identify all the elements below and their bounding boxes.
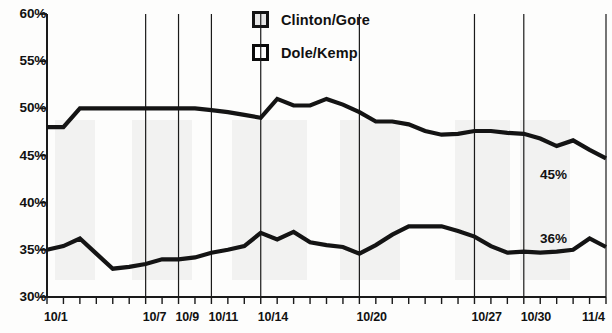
y-tick-label: 45% xyxy=(0,148,46,163)
x-tick-label: 10/20 xyxy=(356,310,386,324)
end-label-clinton-gore: 45% xyxy=(540,167,567,182)
y-tick-label: 35% xyxy=(0,242,46,257)
background-bands xyxy=(55,120,570,280)
chart-plot-area xyxy=(0,0,612,333)
x-tick-label: 11/4 xyxy=(582,310,605,324)
x-tick-label: 10/27 xyxy=(471,310,501,324)
x-tick-label: 10/9 xyxy=(176,310,200,324)
y-tick-label: 55% xyxy=(0,53,46,68)
x-tick-label: 10/1 xyxy=(44,310,68,324)
x-tick-label: 10/30 xyxy=(521,310,551,324)
y-tick-label: 40% xyxy=(0,195,46,210)
end-label-dole-kemp: 36% xyxy=(540,231,567,246)
poll-tracking-chart: Clinton/Gore Dole/Kemp 30%35%40%45%50%55… xyxy=(0,0,612,333)
x-tick-label: 10/11 xyxy=(208,310,238,324)
y-tick-label: 30% xyxy=(0,289,46,304)
y-tick-label: 60% xyxy=(0,6,46,21)
x-tick-label: 10/14 xyxy=(258,310,288,324)
x-tick-label: 10/7 xyxy=(143,310,167,324)
y-tick-label: 50% xyxy=(0,100,46,115)
